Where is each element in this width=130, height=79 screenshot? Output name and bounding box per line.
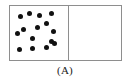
gas-particle	[15, 31, 20, 36]
gas-particle	[27, 11, 32, 16]
right-chamber	[69, 6, 121, 60]
left-chamber	[10, 6, 68, 60]
gas-particle	[44, 45, 49, 50]
gas-particle	[35, 25, 40, 30]
partition-divider	[68, 6, 69, 60]
gas-particle	[21, 27, 26, 32]
gas-particle	[37, 13, 42, 18]
figure-root: (A)	[0, 0, 130, 79]
figure-caption: (A)	[0, 63, 130, 77]
gas-particle	[51, 29, 56, 34]
gas-particle	[17, 47, 22, 52]
gas-particle	[30, 36, 35, 41]
gas-particle	[52, 41, 57, 46]
gas-particle	[44, 21, 49, 26]
gas-particle	[49, 11, 54, 16]
gas-particle	[18, 14, 23, 19]
gas-container-box	[9, 5, 122, 61]
gas-particle	[30, 46, 35, 51]
